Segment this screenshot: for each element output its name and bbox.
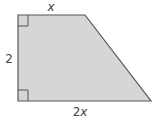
label-bottom: 2x (73, 105, 89, 119)
label-left: 2 (5, 52, 13, 66)
trapezoid-shape (18, 15, 151, 101)
label-top: x (46, 0, 55, 14)
label-bottom-coef: 2 (73, 105, 81, 119)
trapezoid-diagram: x 2 2x (0, 0, 160, 121)
label-bottom-var: x (79, 105, 88, 119)
